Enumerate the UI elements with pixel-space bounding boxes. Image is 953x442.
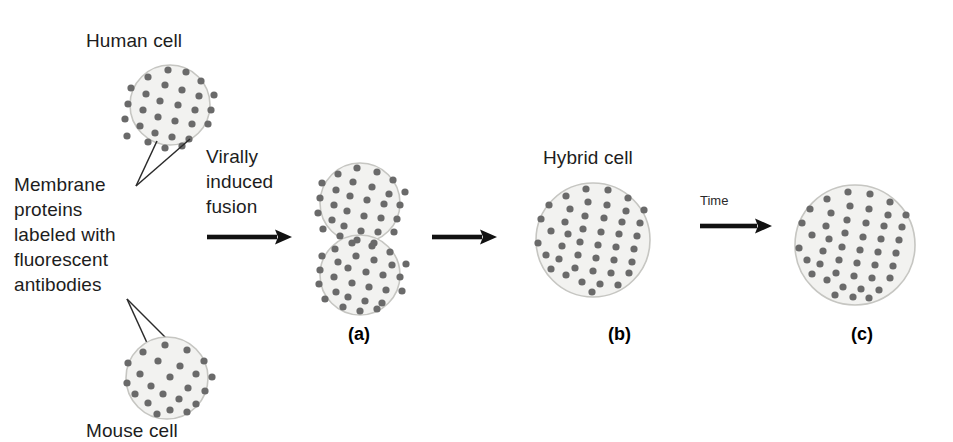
equilibrated-hybrid-cell [791, 181, 919, 309]
cell-fusion-diagram: Human cell Membrane proteins labeled wit… [0, 0, 953, 442]
panel-label-c: (c) [851, 324, 873, 345]
